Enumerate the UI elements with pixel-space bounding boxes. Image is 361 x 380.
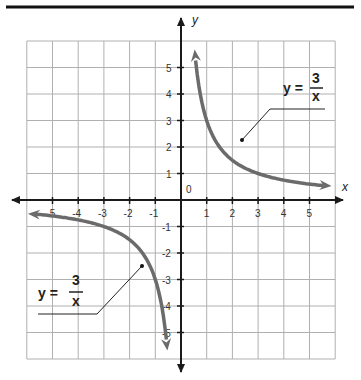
y-tick-label: -2 (162, 248, 171, 259)
x-tick-label: 1 (204, 208, 210, 219)
equation-numerator: 3 (312, 70, 320, 86)
curve-first-quadrant (196, 61, 324, 186)
y-tick-label: 3 (166, 116, 172, 127)
equation-label-upper: y = 3 x (240, 70, 325, 142)
x-tick-label: -2 (124, 208, 133, 219)
equation-lhs: y = (283, 80, 303, 96)
y-tick-label: -3 (162, 275, 171, 286)
curve-arrowhead (161, 338, 171, 350)
x-tick-label: -1 (149, 208, 158, 219)
y-tick-label: 4 (166, 89, 172, 100)
equation-numerator: 3 (72, 272, 80, 288)
x-tick-label: 5 (307, 208, 313, 219)
equation-denominator: x (72, 293, 80, 309)
x-axis-label: x (341, 180, 349, 194)
y-tick-label: 5 (166, 63, 172, 74)
x-tick-label: 4 (281, 208, 287, 219)
leader-dot (240, 138, 244, 142)
equation-denominator: x (312, 88, 320, 104)
y-tick-label: 2 (166, 142, 172, 153)
origin-label: 0 (186, 184, 192, 195)
y-axis-label: y (191, 13, 199, 27)
equation-lhs: y = (38, 285, 58, 301)
y-tick-label: -1 (162, 222, 171, 233)
curve-third-quadrant (36, 214, 167, 339)
x-tick-label: 3 (255, 208, 261, 219)
leader-dot (140, 264, 144, 268)
y-tick-label: 1 (166, 169, 172, 180)
curve-arrowhead (191, 49, 201, 61)
x-tick-label: 2 (229, 208, 235, 219)
x-tick-label: -3 (98, 208, 107, 219)
hyperbola-graph: -5-4-3-2-112345-5-4-3-2-112345 x y 0 y =… (0, 0, 361, 380)
